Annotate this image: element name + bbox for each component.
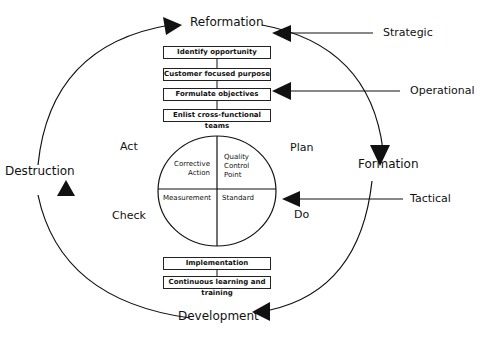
plan-label: Plan: [290, 141, 313, 154]
destruction-label: Destruction: [5, 164, 75, 178]
development-label: Development: [178, 309, 259, 323]
arrow-to-reformation-icon: [163, 17, 182, 35]
operational-label: Operational: [410, 84, 475, 97]
reformation-label: Reformation: [190, 15, 264, 29]
tactical-label: Tactical: [410, 192, 451, 205]
box-implementation: Implementation: [163, 257, 271, 270]
quadrant-corrective-action: Corrective Action: [172, 160, 210, 178]
tactical-arrow-icon: [282, 191, 300, 207]
formation-label: Formation: [358, 157, 419, 171]
quadrant-measurement: Measurement: [163, 194, 211, 203]
box-enlist-teams: Enlist cross-functional teams: [163, 109, 271, 122]
act-label: Act: [120, 140, 138, 153]
strategic-label: Strategic: [383, 26, 433, 39]
box-customer-focused-purpose: Customer focused purpose: [163, 68, 271, 81]
box-identify-opportunity: Identify opportunity: [163, 46, 271, 59]
check-label: Check: [112, 209, 146, 222]
do-label: Do: [294, 208, 309, 221]
operational-arrow-icon: [272, 82, 291, 100]
box-continuous-learning: Continuous learning and training: [163, 276, 271, 289]
quadrant-quality-control-point: Quality Control Point: [224, 153, 249, 180]
quadrant-standard: Standard: [222, 194, 254, 203]
box-formulate-objectives: Formulate objectives: [163, 88, 271, 101]
arrow-to-destruction-icon: [57, 180, 75, 196]
